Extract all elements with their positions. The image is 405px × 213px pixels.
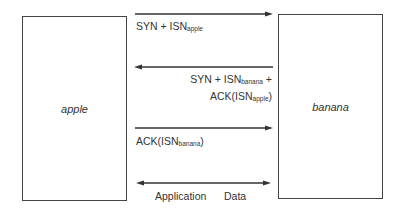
message-data-label: Data <box>224 190 246 202</box>
message-syn-subscript: apple <box>187 25 203 32</box>
message-syn-text: SYN + ISN <box>136 20 187 32</box>
message-synack-line1-suffix: + <box>263 73 272 85</box>
message-synack-line1: SYN + ISNbanana + <box>190 73 272 85</box>
message-application-label: Application <box>155 190 206 202</box>
arrow-syn-right-icon <box>135 12 273 17</box>
message-ack-text: ACK(ISN <box>136 135 179 147</box>
arrow-data-bidirectional-icon <box>136 181 271 186</box>
arrow-synack-left-icon <box>134 65 273 70</box>
message-synack-line2-text: ACK(ISN <box>210 90 253 102</box>
message-ack-subscript: banana <box>179 140 201 147</box>
message-ack-label: ACK(ISNbanana) <box>136 135 204 147</box>
message-synack-line2: ACK(ISNapple) <box>210 90 272 102</box>
message-synack-line2-suffix: ) <box>269 90 273 102</box>
message-synack-line2-subscript: apple <box>253 95 269 102</box>
message-synack-line1-text: SYN + ISN <box>190 73 241 85</box>
message-synack-line1-subscript: banana <box>241 78 263 85</box>
message-ack-suffix: ) <box>200 135 204 147</box>
message-syn-label: SYN + ISNapple <box>136 20 203 32</box>
arrow-ack-right-icon <box>135 126 273 131</box>
